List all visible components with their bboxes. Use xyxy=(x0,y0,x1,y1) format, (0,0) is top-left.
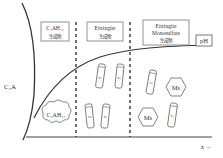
hydration-diagram: C₄AH₁₃ 生成物 Ettringite 生成物 Ettringite Mon… xyxy=(0,0,223,158)
ph-label-box: pH xyxy=(196,35,212,46)
ettringite-crystal: Ett xyxy=(95,64,105,89)
stage-box-ettringite-monosulfate: Ettringite Monosulfate 生成物 xyxy=(143,20,189,45)
svg-text:C₄AH₁₃: C₄AH₁₃ xyxy=(46,25,63,31)
svg-text:C₄AH₁₃: C₄AH₁₃ xyxy=(47,112,66,118)
svg-text:生成物: 生成物 xyxy=(49,33,62,40)
ettringite-crystal: Ett xyxy=(115,64,124,89)
svg-text:Ettringite: Ettringite xyxy=(156,23,177,29)
svg-text:生成物: 生成物 xyxy=(99,33,112,40)
svg-text:Ms: Ms xyxy=(172,84,181,91)
svg-text:Ett: Ett xyxy=(103,115,107,119)
svg-text:pH: pH xyxy=(200,37,208,44)
svg-text:Monosulfate: Monosulfate xyxy=(152,30,180,36)
c3a-curve xyxy=(22,3,35,140)
ettringite-crystal: Ett xyxy=(167,103,177,128)
svg-text:Ett: Ett xyxy=(88,115,92,119)
svg-text:Ett: Ett xyxy=(117,76,121,80)
c4ah13-cloud: C₄AH₁₃ xyxy=(42,100,71,122)
monosulfate-crystal: Ms xyxy=(138,108,158,126)
stage-box-c4ah13: C₄AH₁₃ 生成物 xyxy=(41,22,69,41)
svg-text:Ms: Ms xyxy=(144,114,153,121)
ettringite-crystal: Ett xyxy=(85,104,94,129)
svg-text:Ettringite: Ettringite xyxy=(95,25,116,31)
ettringite-crystal: Ett xyxy=(101,104,110,129)
monosulfate-crystal: Ms xyxy=(166,78,186,96)
svg-text:生成物: 生成物 xyxy=(160,37,173,44)
diagram-canvas: C₄AH₁₃ 生成物 Ettringite 生成物 Ettringite Mon… xyxy=(0,0,223,158)
ettringite-crystal: Ett xyxy=(146,70,157,95)
c3a-label: C₃A xyxy=(4,83,16,91)
stage-box-ettringite: Ettringite 生成物 xyxy=(87,22,123,41)
x-axis-label: x → xyxy=(201,144,212,150)
